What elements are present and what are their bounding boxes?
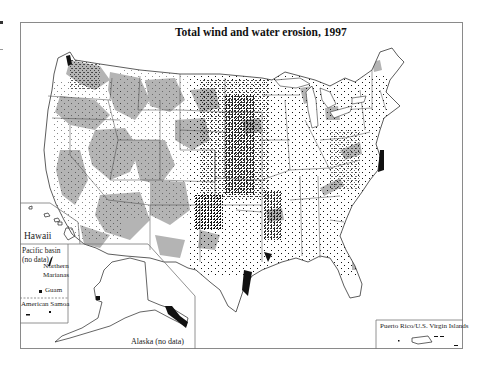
alaska-label: Alaska (no data) — [131, 337, 184, 346]
hawaii-label: Hawaii — [24, 231, 51, 241]
puerto-rico-label: Puerto Rico/U.S. Virgin Islands — [380, 322, 469, 330]
erosion-map — [0, 0, 484, 365]
virgin-islands — [398, 336, 458, 346]
contiguous-us — [40, 40, 420, 320]
map-title: Total wind and water erosion, 1997 — [175, 26, 347, 38]
puerto-rico — [412, 336, 432, 344]
northern-marianas-label: Northern Marianas — [41, 262, 71, 279]
american-samoa-label: American Samoa — [21, 300, 69, 308]
guam-label: Guam — [45, 286, 62, 294]
alaska-outline — [55, 258, 188, 342]
